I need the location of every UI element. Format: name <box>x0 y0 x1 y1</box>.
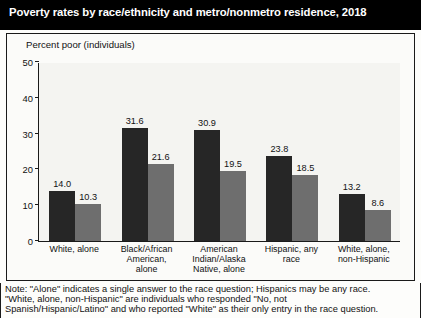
x-axis-category-line: Native, alone <box>183 265 255 275</box>
x-axis-category-line: race <box>255 255 327 265</box>
footnote-line-3: Spanish/Hispanic/Latino" and who reporte… <box>5 304 378 314</box>
y-axis-tick-label: 10 <box>23 200 39 211</box>
bar-group: 13.28.6 <box>339 63 391 241</box>
y-axis-tick-label: 30 <box>23 128 39 139</box>
bar-value-label: 10.3 <box>79 192 97 202</box>
bar-value-label: 8.6 <box>371 198 384 208</box>
title-banner: Poverty rates by race/ethnicity and metr… <box>0 0 421 30</box>
chart-figure: Poverty rates by race/ethnicity and metr… <box>0 0 421 318</box>
bar-value-label: 21.6 <box>152 152 170 162</box>
bar-group: 31.621.6 <box>122 63 174 241</box>
bar-metro: 21.6 <box>148 164 174 241</box>
bar-value-label: 23.8 <box>270 144 288 154</box>
bar-nonmetro: 30.9 <box>194 130 220 241</box>
y-axis-tick-mark <box>35 240 39 241</box>
x-axis-category-label: Hispanic, anyrace <box>255 245 327 265</box>
x-axis-category-label: White, alone,non-Hispanic <box>328 245 400 265</box>
y-axis-tick-mark <box>35 97 39 98</box>
bar-nonmetro: 23.8 <box>266 156 292 241</box>
bar-metro: 8.6 <box>365 210 391 241</box>
bar-value-label: 14.0 <box>53 179 71 189</box>
bar-group: 30.919.5 <box>194 63 246 241</box>
y-axis-tick-mark <box>35 168 39 169</box>
bar-value-label: 31.6 <box>126 116 144 126</box>
bar-group: 14.010.3 <box>49 63 101 241</box>
y-axis-title: Percent poor (individuals) <box>26 39 135 50</box>
bar-metro: 10.3 <box>75 204 101 241</box>
footnote-line-2: "White, alone, non-Hispanic" are individ… <box>5 294 287 304</box>
footnote-box: Note: "Alone" indicates a single answer … <box>0 283 421 318</box>
footnote-line-1: Note: "Alone" indicates a single answer … <box>5 284 370 294</box>
x-axis-category-label: AmericanIndian/AlaskaNative, alone <box>183 245 255 274</box>
x-axis-category-line: non-Hispanic <box>328 255 400 265</box>
y-axis-tick-label: 50 <box>23 57 39 68</box>
x-axis-category-line: alone <box>110 265 182 275</box>
bar-value-label: 19.5 <box>224 159 242 169</box>
y-axis-tick-mark <box>35 204 39 205</box>
bar-value-label: 30.9 <box>198 118 216 128</box>
bar-nonmetro: 14.0 <box>49 191 75 241</box>
bar-nonmetro: 31.6 <box>122 128 148 241</box>
page-title: Poverty rates by race/ethnicity and metr… <box>9 6 367 18</box>
bar-metro: 18.5 <box>292 175 318 241</box>
y-axis-tick-mark <box>35 61 39 62</box>
y-axis-tick-label: 20 <box>23 164 39 175</box>
plot-area: 0102030405014.010.331.621.630.919.523.81… <box>38 63 400 242</box>
bar-value-label: 18.5 <box>296 163 314 173</box>
x-axis-category-label: White, alone <box>38 245 110 255</box>
y-axis-tick-mark <box>35 133 39 134</box>
bar-metro: 19.5 <box>220 171 246 241</box>
bar-group: 23.818.5 <box>266 63 318 241</box>
bar-value-label: 13.2 <box>343 182 361 192</box>
x-axis-category-label: Black/AfricanAmerican,alone <box>110 245 182 274</box>
x-axis-category-line: White, alone <box>38 245 110 255</box>
y-axis-tick-label: 40 <box>23 92 39 103</box>
bar-nonmetro: 13.2 <box>339 194 365 241</box>
